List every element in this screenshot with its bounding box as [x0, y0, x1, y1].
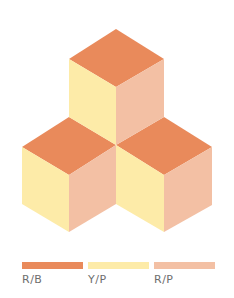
legend-swatch — [22, 262, 83, 269]
legend-swatch — [154, 262, 215, 269]
legend-label: R/B — [22, 273, 83, 286]
cube-stack-diagram — [0, 0, 234, 250]
legend-item-rb: R/B — [22, 262, 83, 286]
legend: R/B Y/P R/P — [22, 262, 222, 292]
legend-label: Y/P — [88, 273, 149, 286]
legend-swatch — [88, 262, 149, 269]
legend-item-yp: Y/P — [88, 262, 149, 286]
legend-label: R/P — [154, 273, 215, 286]
legend-item-rp: R/P — [154, 262, 215, 286]
